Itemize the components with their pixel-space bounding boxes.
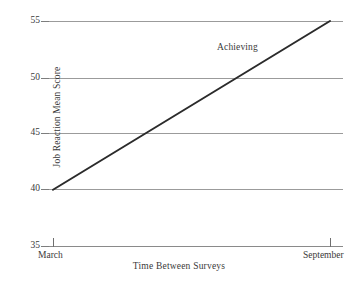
series-line-achieving [53,21,330,190]
line-chart: 55 50 45 40 35 Job Reaction Mean Score M… [0,0,358,287]
plot-area [0,0,358,287]
